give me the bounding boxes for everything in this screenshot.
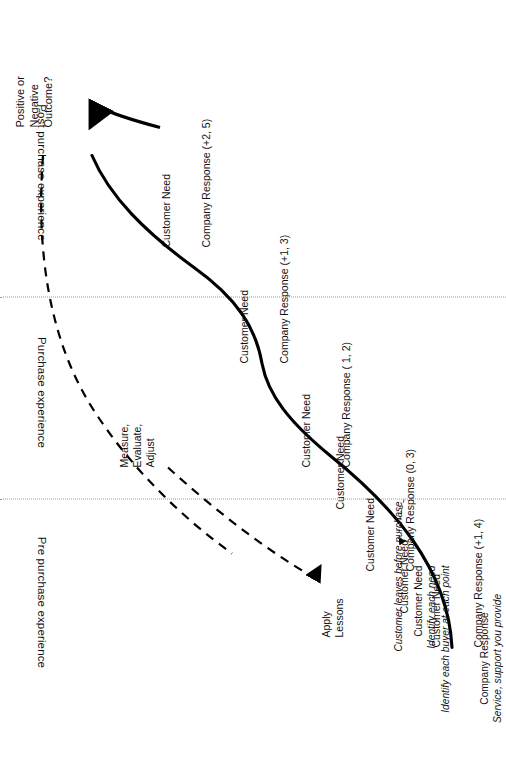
apply-lessons-line-2: Lessons [333,598,345,637]
stage-need-5: Customer Need [160,173,173,247]
dropout-note: Customer leaves before purchase [392,501,405,651]
apply-lessons-arrow [168,467,314,577]
legend-need-title: Customer Need [412,565,425,765]
stage-response-4: Company Response (+1, 3) [278,234,291,363]
outcome-line-2: Negative [28,84,40,127]
stage-response-5: Company Response (+2, 5) [200,118,213,247]
legend-response-line-1: Service, support you provide [491,543,504,767]
diagram-canvas: Pre purchase experience Purchase experie… [0,0,506,767]
apply-lessons-line-1: Apply [320,611,332,637]
measure-line-3: Adjust [144,438,156,467]
legend-company-response: Company Response Service, support you pr… [478,543,506,767]
legend-response-title: Company Response [478,543,491,767]
outcome-axis-label: Positive or Negative Outcome? [14,76,55,127]
measure-line-2: Evaluate, [131,423,143,467]
measure-evaluate-adjust-note: Measure, Evaluate, Adjust [118,423,157,467]
legend-customer-need: Customer Need Identify each need Identif… [412,565,452,765]
legend-need-line-1: Identify each need [425,565,438,765]
outcome-line-3: Outcome? [42,76,54,127]
outcome-line-1: Positive or [14,76,26,127]
legend-need-line-2: Identify each buyer at each point [439,565,452,765]
stage-need-4: Customer Need [238,289,251,363]
stage-need-2: Customer Need [364,497,377,571]
figure-root: Pre purchase experience Purchase experie… [0,0,506,767]
outcome-arrow [100,107,160,127]
apply-lessons-note: Apply Lessons [320,598,346,637]
stage-need-3: Customer Need [300,393,313,467]
extra-need-1: Customer Need [334,435,347,509]
measure-line-1: Measure, [118,423,130,467]
